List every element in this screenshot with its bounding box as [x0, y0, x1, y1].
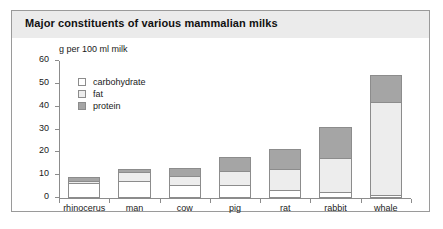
y-axis-tick-label: 60	[39, 54, 49, 64]
chart-figure: Major constituents of various mammalian …	[11, 10, 430, 212]
y-axis-tick: 60	[55, 60, 59, 61]
bar-segment-carbohydrate	[169, 185, 201, 198]
y-axis-tick: 30	[55, 129, 59, 130]
bar-segment-protein	[219, 157, 251, 171]
y-axis-tick: 0	[55, 197, 59, 198]
y-axis-tick-label: 0	[44, 191, 49, 201]
bar-segment-fat	[370, 102, 402, 194]
y-axis-tick-label: 30	[39, 123, 49, 133]
page-title: Major constituents of various mammalian …	[25, 17, 278, 29]
bar-rhinocerus	[68, 177, 100, 198]
legend-item-fat: fat	[78, 88, 146, 99]
legend-swatch-fat	[78, 90, 86, 98]
y-axis-label: g per 100 ml milk	[59, 44, 128, 54]
x-axis-label-pig: pig	[210, 203, 260, 213]
bar-pig	[219, 157, 251, 198]
bar-segment-carbohydrate	[269, 190, 301, 198]
bar-segment-fat	[269, 169, 301, 190]
legend-swatch-carbohydrate	[78, 78, 86, 86]
chart-legend: carbohydratefatprotein	[78, 76, 146, 112]
legend-item-protein: protein	[78, 100, 146, 111]
x-axis-label-rhinocerus: rhinocerus	[59, 203, 109, 213]
bar-segment-fat	[319, 158, 351, 192]
bar-segment-protein	[370, 75, 402, 102]
bar-segment-protein	[319, 127, 351, 158]
x-axis-label-rat: rat	[260, 203, 310, 213]
bar-man	[118, 169, 150, 198]
legend-item-carbohydrate: carbohydrate	[78, 76, 146, 87]
y-axis-tick-label: 50	[39, 77, 49, 87]
bar-segment-carbohydrate	[68, 183, 100, 198]
bar-segment-protein	[169, 168, 201, 176]
bar-rat	[269, 149, 301, 198]
bar-segment-carbohydrate	[370, 195, 402, 198]
legend-swatch-protein	[78, 102, 86, 110]
y-axis-tick-label: 40	[39, 100, 49, 110]
bar-segment-carbohydrate	[118, 181, 150, 198]
x-axis-tick	[411, 199, 412, 203]
y-axis-tick-label: 20	[39, 145, 49, 155]
bar-cow	[169, 168, 201, 198]
legend-label: protein	[93, 101, 121, 111]
y-axis-tick: 20	[55, 151, 59, 152]
bar-segment-fat	[169, 176, 201, 185]
bar-segment-protein	[269, 149, 301, 170]
bar-whale	[370, 75, 402, 198]
x-axis-label-whale: whale	[361, 203, 411, 213]
x-axis-line	[59, 198, 411, 199]
bar-segment-fat	[219, 171, 251, 186]
bar-rabbit	[319, 127, 351, 198]
y-axis-line	[59, 61, 60, 199]
y-axis-tick: 40	[55, 106, 59, 107]
legend-label: carbohydrate	[93, 77, 146, 87]
legend-label: fat	[93, 89, 103, 99]
bar-segment-carbohydrate	[319, 192, 351, 198]
y-axis-tick: 10	[55, 174, 59, 175]
x-axis-label-cow: cow	[160, 203, 210, 213]
bar-segment-carbohydrate	[219, 185, 251, 198]
bar-segment-fat	[118, 172, 150, 181]
x-axis-label-man: man	[109, 203, 159, 213]
y-axis-tick: 50	[55, 83, 59, 84]
y-axis-tick-label: 10	[39, 168, 49, 178]
x-axis-label-rabbit: rabbit	[310, 203, 360, 213]
